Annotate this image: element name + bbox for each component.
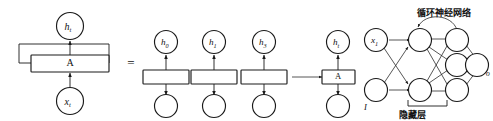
hidden-left-node-bottom bbox=[409, 79, 432, 102]
recurrent-feedback-arc bbox=[418, 17, 457, 30]
rnn-cell-label: A bbox=[66, 57, 74, 68]
hidden-right-node-bottom bbox=[446, 79, 469, 102]
step-2-cell-box bbox=[241, 70, 287, 84]
edge-i-to-hidden-top bbox=[384, 47, 408, 83]
input-node-xt-subscript: t bbox=[69, 101, 71, 108]
step-0-cell-box bbox=[143, 70, 189, 84]
output-node-ht-subscript: t bbox=[70, 26, 72, 33]
step-2-top-subscript: 3 bbox=[263, 42, 267, 49]
output-node-o-label: o bbox=[486, 69, 490, 78]
step-2-bottom-node bbox=[253, 95, 276, 118]
folded-rnn-cell: A ht xt bbox=[19, 13, 109, 115]
unrolled-step-1: h1 bbox=[191, 31, 237, 118]
hidden-layer-bracket bbox=[408, 100, 447, 106]
step-t-bottom-node bbox=[327, 95, 350, 118]
input-node-x1-subscript: 1 bbox=[375, 40, 378, 47]
unrolled-step-2: h3 bbox=[241, 31, 287, 118]
rnn-diagram-svg: A ht xt = h0 bbox=[0, 0, 493, 121]
figure-root: A ht xt = h0 bbox=[0, 0, 493, 121]
input-node-i bbox=[365, 79, 388, 102]
step-1-bottom-node bbox=[203, 95, 226, 118]
edge-hl-bot-to-hr-top bbox=[427, 46, 447, 81]
step-1-cell-box bbox=[191, 70, 237, 84]
recurrent-network-graph: x1 I o 隐藏层 循环神经网络 bbox=[363, 7, 490, 120]
input-node-i-label: I bbox=[363, 102, 368, 112]
step-0-bottom-node bbox=[155, 95, 178, 118]
edge-x1-to-hidden-bottom bbox=[384, 48, 408, 84]
hidden-left-node-top bbox=[409, 29, 432, 52]
hidden-layer-label: 隐藏层 bbox=[399, 109, 426, 120]
step-t-top-subscript: t bbox=[338, 42, 340, 49]
network-title-label: 循环神经网络 bbox=[417, 7, 471, 18]
equals-sign: = bbox=[127, 55, 134, 70]
hidden-right-node-top bbox=[446, 29, 469, 52]
edge-hl-top-to-hr-bot bbox=[427, 49, 447, 84]
step-t-cell-label: A bbox=[335, 71, 342, 81]
unrolled-step-0: h0 bbox=[143, 31, 189, 118]
unrolled-step-t: ht A bbox=[322, 31, 355, 118]
step-1-top-subscript: 1 bbox=[214, 42, 217, 49]
